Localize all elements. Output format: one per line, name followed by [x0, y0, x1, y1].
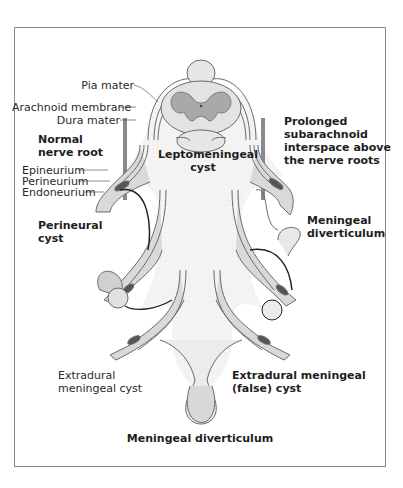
label-leptomeningeal-cyst: Leptomeningeal cyst [158, 148, 248, 174]
label-meningeal-diverticulum-bottom: Meningeal diverticulum [120, 432, 280, 445]
label-meningeal-diverticulum-right: Meningeal diverticulum [307, 214, 385, 240]
label-endoneurium: Endoneurium [22, 186, 96, 199]
right-diverticulum-sac [278, 227, 300, 256]
label-extradural-meningeal-cyst: Extradural meningeal cyst [58, 369, 142, 395]
label-dura-mater: Dura mater [40, 114, 120, 127]
label-extradural-false-cyst: Extradural meningeal (false) cyst [232, 369, 366, 395]
label-perineural-cyst: Perineural cyst [38, 219, 102, 245]
label-pia-mater: Pia mater [60, 79, 134, 92]
extradural-false-cyst [262, 300, 282, 320]
label-arachnoid-membrane: Arachnoid membrane [12, 101, 120, 114]
label-prolonged-subarachnoid: Prolonged subarachnoid interspace above … [284, 115, 391, 167]
extradural-cyst-left [108, 288, 128, 308]
label-normal-nerve-root: Normal nerve root [38, 133, 103, 159]
